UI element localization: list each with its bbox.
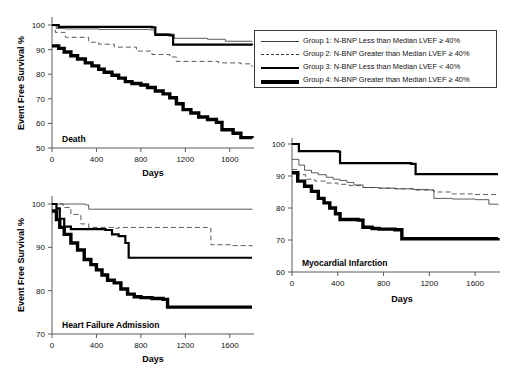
y-tick-label: 100 <box>32 200 46 209</box>
legend-item-group2: Group 2: N-BNP Greater than Median LVEF … <box>259 47 492 60</box>
y-tick-label: 70 <box>36 95 45 104</box>
hf-x-axis-title: Days <box>142 354 164 364</box>
y-tick-label: 100 <box>32 21 46 30</box>
x-tick-label: 1600 <box>221 155 239 164</box>
death-y-ticks: 5060708090100 <box>32 21 52 153</box>
x-tick-label: 1200 <box>176 155 194 164</box>
y-tick-label: 70 <box>36 330 45 339</box>
y-tick-label: 90 <box>36 46 45 55</box>
y-tick-label: 60 <box>276 268 285 277</box>
legend: Group 1: N-BNP Less than Median LVEF ≥ 4… <box>254 30 497 88</box>
legend-item-group4: Group 4: N-BNP Greater than Median LVEF … <box>259 73 492 86</box>
legend-label-group2: Group 2: N-BNP Greater than Median LVEF … <box>303 49 469 58</box>
y-tick-label: 70 <box>276 236 285 245</box>
hf-axes <box>52 196 254 334</box>
legend-item-group1: Group 1: N-BNP Less than Median LVEF ≥ 4… <box>259 34 492 47</box>
panel-death: 5060708090100 040080012001600 Death Days… <box>14 8 259 180</box>
hf-y-axis-title: Event Free Survival % <box>16 218 26 312</box>
legend-label-group1: Group 1: N-BNP Less than Median LVEF ≥ 4… <box>303 36 460 45</box>
legend-label-group3: Group 3: N-BNP Less than Median LVEF < 4… <box>303 62 460 71</box>
x-tick-label: 400 <box>90 155 104 164</box>
x-tick-label: 800 <box>377 279 391 288</box>
mi-axes <box>292 138 500 272</box>
x-tick-label: 1600 <box>221 341 239 350</box>
mi-curves <box>292 144 498 239</box>
legend-line-sample-group4 <box>259 74 301 86</box>
mi-x-axis-title: Days <box>391 294 413 304</box>
hf-curves <box>52 204 252 307</box>
x-tick-label: 0 <box>50 155 55 164</box>
x-tick-label: 1600 <box>466 279 484 288</box>
mi-panel-title: Myocardial Infarction <box>302 258 388 268</box>
panel-heart-failure-admission: 708090100 040080012001600 Heart Failure … <box>14 186 259 371</box>
death-curves <box>52 25 252 138</box>
y-tick-label: 60 <box>36 119 45 128</box>
x-tick-label: 1200 <box>176 341 194 350</box>
survival-curve-group3 <box>52 25 252 45</box>
mi-y-ticks: 60708090100 <box>272 140 292 277</box>
death-y-axis-title: Event Free Survival % <box>16 36 26 130</box>
y-tick-label: 80 <box>36 287 45 296</box>
death-chart-svg: 5060708090100 040080012001600 Death Days… <box>14 8 259 180</box>
survival-curve-group4 <box>52 46 252 138</box>
survival-curve-group1 <box>52 204 252 210</box>
hf-panel-title: Heart Failure Admission <box>62 320 159 330</box>
y-tick-label: 50 <box>36 144 45 153</box>
heart-failure-chart-svg: 708090100 040080012001600 Heart Failure … <box>14 186 259 371</box>
y-tick-label: 100 <box>272 140 286 149</box>
death-x-ticks: 040080012001600 <box>50 148 239 164</box>
y-tick-label: 90 <box>36 243 45 252</box>
myocardial-infarction-chart-svg: 60708090100 040080012001600 Myocardial I… <box>262 132 505 312</box>
legend-item-group3: Group 3: N-BNP Less than Median LVEF < 4… <box>259 60 492 73</box>
death-panel-title: Death <box>62 134 86 144</box>
survival-curve-group3 <box>292 144 498 174</box>
x-tick-label: 400 <box>90 341 104 350</box>
x-tick-label: 800 <box>134 155 148 164</box>
x-tick-label: 400 <box>331 279 345 288</box>
x-tick-label: 0 <box>290 279 295 288</box>
y-tick-label: 90 <box>276 172 285 181</box>
y-tick-label: 80 <box>36 70 45 79</box>
legend-line-sample-group3 <box>259 61 301 73</box>
x-tick-label: 0 <box>50 341 55 350</box>
survival-curve-group2 <box>52 204 252 246</box>
legend-line-sample-group1 <box>259 35 301 47</box>
panel-myocardial-infarction: 60708090100 040080012001600 Myocardial I… <box>262 132 505 312</box>
y-tick-label: 80 <box>276 204 285 213</box>
legend-label-group4: Group 4: N-BNP Greater than Median LVEF … <box>303 75 469 84</box>
x-tick-label: 800 <box>134 341 148 350</box>
survival-curve-group4 <box>292 173 498 239</box>
legend-line-sample-group2 <box>259 48 301 60</box>
hf-y-ticks: 708090100 <box>32 200 52 339</box>
hf-x-ticks: 040080012001600 <box>50 334 239 350</box>
mi-x-ticks: 040080012001600 <box>290 272 485 288</box>
x-tick-label: 1200 <box>420 279 438 288</box>
survival-curve-group4 <box>52 211 252 307</box>
death-x-axis-title: Days <box>142 168 164 178</box>
